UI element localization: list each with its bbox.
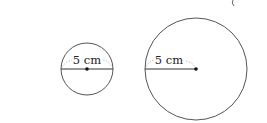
large-circle-label: 5 cm <box>155 53 183 67</box>
large-dimension-arc-right <box>186 61 195 67</box>
large-circle-center-dot <box>194 67 198 71</box>
partial-parenthesis-mark <box>232 0 234 6</box>
large-dimension-arc-left <box>146 60 154 67</box>
small-dimension-arc-right <box>103 60 112 67</box>
small-dimension-arc-left <box>62 60 72 67</box>
small-circle-group: 5 cm <box>61 43 113 95</box>
small-circle-center-dot <box>85 67 89 71</box>
small-circle-label: 5 cm <box>73 53 101 67</box>
circles-diagram: 5 cm 5 cm <box>0 0 267 123</box>
large-circle-group: 5 cm <box>145 18 247 120</box>
